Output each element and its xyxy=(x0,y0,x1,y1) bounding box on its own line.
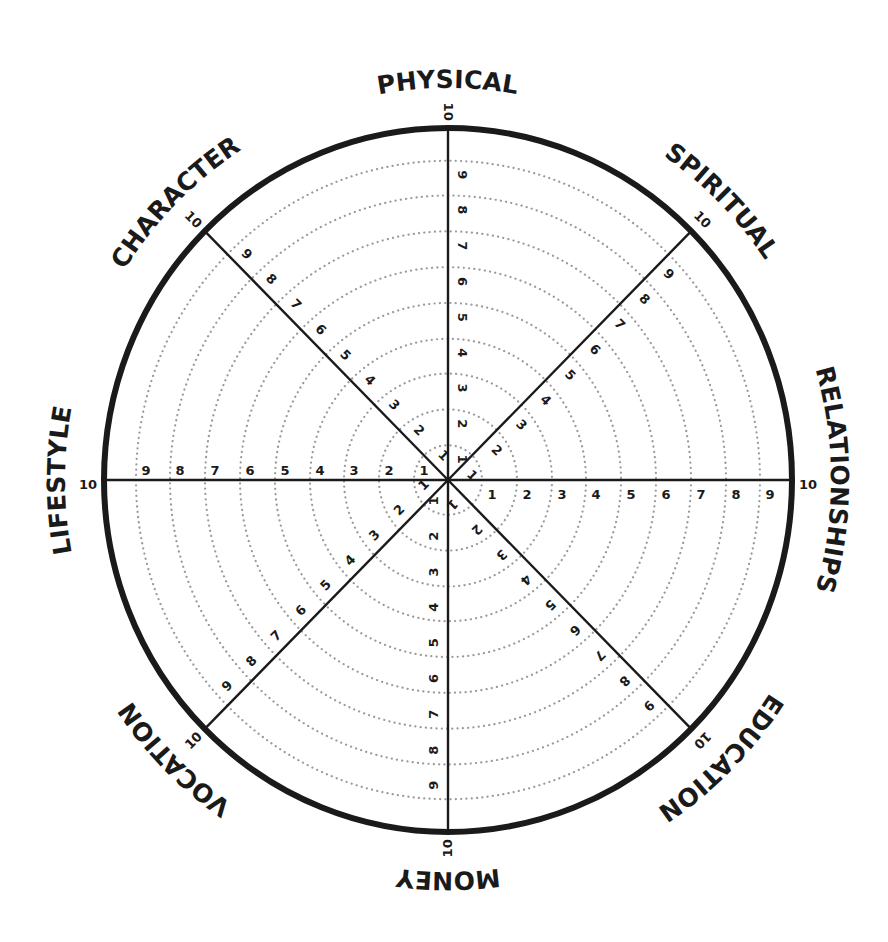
category-label-money: MONEY xyxy=(394,863,502,896)
scale-number-education-5: 5 xyxy=(542,597,559,614)
scale-number-lifestyle-10: 10 xyxy=(79,477,97,492)
spoke-education xyxy=(448,480,691,729)
category-label-physical: PHYSICAL xyxy=(375,64,521,99)
scale-number-education-1: 1 xyxy=(444,496,461,513)
scale-number-vocation-3: 3 xyxy=(366,527,383,544)
category-spokes xyxy=(104,128,792,832)
scale-number-education-4: 4 xyxy=(517,572,534,589)
scale-number-money-4: 4 xyxy=(427,603,442,612)
scale-number-physical-3: 3 xyxy=(455,383,470,392)
spoke-character xyxy=(205,231,448,480)
scale-number-physical-7: 7 xyxy=(455,241,470,250)
scale-number-spiritual-5: 5 xyxy=(562,366,579,383)
scale-number-vocation-6: 6 xyxy=(292,602,309,619)
scale-number-spiritual-3: 3 xyxy=(513,416,530,433)
scale-number-physical-4: 4 xyxy=(455,348,470,357)
scale-number-lifestyle-4: 4 xyxy=(315,463,324,478)
scale-number-spiritual-7: 7 xyxy=(611,316,628,333)
scale-number-character-2: 2 xyxy=(411,422,428,439)
scale-number-money-8: 8 xyxy=(427,746,442,755)
scale-number-spiritual-2: 2 xyxy=(488,442,505,459)
scale-number-education-3: 3 xyxy=(493,547,510,564)
scale-number-physical-6: 6 xyxy=(455,277,470,286)
scale-number-relationships-1: 1 xyxy=(487,487,496,502)
scale-number-physical-5: 5 xyxy=(455,313,470,322)
scale-number-character-1: 1 xyxy=(435,447,452,464)
scale-number-vocation-8: 8 xyxy=(243,653,260,670)
scale-number-character-8: 8 xyxy=(263,270,280,287)
scale-number-money-2: 2 xyxy=(427,532,442,541)
scale-number-lifestyle-8: 8 xyxy=(175,463,184,478)
scale-number-spiritual-4: 4 xyxy=(537,391,554,408)
scale-number-vocation-4: 4 xyxy=(342,552,359,569)
scale-number-education-9: 9 xyxy=(640,697,657,714)
scale-number-vocation-2: 2 xyxy=(391,501,408,518)
scale-number-physical-1: 1 xyxy=(455,455,470,464)
scale-number-physical-2: 2 xyxy=(455,419,470,428)
scale-number-education-2: 2 xyxy=(468,521,485,538)
scale-number-physical-8: 8 xyxy=(455,205,470,214)
scale-number-relationships-6: 6 xyxy=(661,487,670,502)
category-label-lifestyle: LIFESTYLE xyxy=(41,403,77,557)
scale-number-character-3: 3 xyxy=(386,396,403,413)
scale-number-money-1: 1 xyxy=(427,496,442,505)
scale-number-spiritual-9: 9 xyxy=(660,266,677,283)
scale-number-vocation-9: 9 xyxy=(218,677,235,694)
scale-number-money-3: 3 xyxy=(427,568,442,577)
scale-number-character-4: 4 xyxy=(362,371,379,388)
scale-number-money-10: 10 xyxy=(441,839,456,857)
scale-number-spiritual-6: 6 xyxy=(587,341,604,358)
scale-number-money-6: 6 xyxy=(427,674,442,683)
scale-number-education-6: 6 xyxy=(567,622,584,639)
scale-number-spiritual-10: 10 xyxy=(691,208,714,231)
scale-number-spiritual-8: 8 xyxy=(636,290,653,307)
scale-number-lifestyle-1: 1 xyxy=(419,463,428,478)
scale-number-money-5: 5 xyxy=(427,638,442,647)
scale-number-money-9: 9 xyxy=(427,781,442,790)
scale-number-relationships-10: 10 xyxy=(799,477,817,492)
scale-number-relationships-8: 8 xyxy=(731,487,740,502)
scale-number-lifestyle-5: 5 xyxy=(280,463,289,478)
scale-number-lifestyle-6: 6 xyxy=(245,463,254,478)
scale-number-character-5: 5 xyxy=(337,346,354,363)
scale-number-education-8: 8 xyxy=(616,673,633,690)
scale-number-relationships-3: 3 xyxy=(557,487,566,502)
scale-number-lifestyle-9: 9 xyxy=(141,463,150,478)
scale-number-relationships-7: 7 xyxy=(696,487,705,502)
scale-number-character-10: 10 xyxy=(182,208,205,231)
scale-number-character-7: 7 xyxy=(288,296,305,313)
scale-number-vocation-10: 10 xyxy=(182,729,205,752)
scale-number-vocation-5: 5 xyxy=(317,577,334,594)
scale-number-lifestyle-3: 3 xyxy=(349,463,358,478)
scale-number-money-7: 7 xyxy=(427,710,442,719)
wheel-svg: 1234567891012345678910123456789101234567… xyxy=(0,0,888,942)
scale-number-relationships-2: 2 xyxy=(522,487,531,502)
wheel-of-life-diagram: 1234567891012345678910123456789101234567… xyxy=(0,0,888,942)
scale-number-relationships-5: 5 xyxy=(626,487,635,502)
scale-number-physical-10: 10 xyxy=(441,103,456,121)
scale-number-relationships-9: 9 xyxy=(765,487,774,502)
spoke-spiritual xyxy=(448,231,691,480)
scale-number-lifestyle-2: 2 xyxy=(384,463,393,478)
scale-number-lifestyle-7: 7 xyxy=(210,463,219,478)
scale-number-character-6: 6 xyxy=(312,321,329,338)
scale-number-character-9: 9 xyxy=(238,246,255,263)
scale-number-education-10: 10 xyxy=(691,729,714,752)
scale-number-physical-9: 9 xyxy=(455,170,470,179)
spoke-vocation xyxy=(205,480,448,729)
scale-number-relationships-4: 4 xyxy=(591,487,600,502)
scale-number-vocation-7: 7 xyxy=(268,627,285,644)
scale-number-education-7: 7 xyxy=(591,647,608,664)
